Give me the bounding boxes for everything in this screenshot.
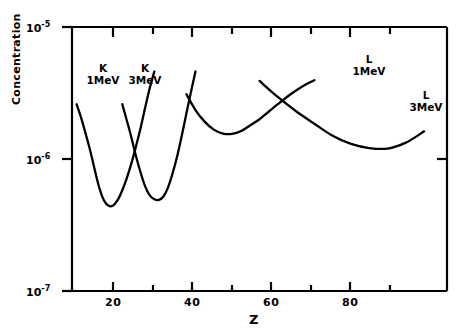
x-axis-title: Z [249,312,258,327]
curve-l-3mev [260,81,425,149]
y-tick-label-1e-6: 10-6 [26,152,50,167]
y-tick-label-1e-7: 10-7 [26,284,50,299]
curve-label-l-1mev: L 1MeV [348,53,390,77]
curve-label-k-3mev: K 3MeV [123,62,167,86]
curve-l-1mev [186,80,314,134]
y-tick-label-1e-5: 10-5 [26,20,50,35]
curve-label-l-1mev-line2: 1MeV [348,65,390,77]
x-tick-label-20: 20 [105,296,121,309]
plot-area-svg [0,0,468,332]
x-tick-label-60: 60 [263,296,279,309]
data-curves [77,72,425,207]
curve-k-3mev [122,72,195,201]
curve-label-l-1mev-line1: L [348,53,390,65]
curve-label-l-3mev: L 3MeV [404,89,448,113]
figure-canvas: 10-5 10-6 10-7 Concentration 20 40 60 80… [0,0,468,332]
y-axis-ticks [62,27,72,291]
x-tick-label-80: 80 [342,296,358,309]
curve-label-l-3mev-line2: 3MeV [404,101,448,113]
curve-label-k-3mev-line2: 3MeV [123,74,167,86]
curve-label-k-1mev: K 1MeV [82,62,124,86]
x-axis-ticks-top [113,27,390,37]
curve-k-1mev [77,72,155,207]
curve-label-k-1mev-line2: 1MeV [82,74,124,86]
x-tick-label-40: 40 [184,296,200,309]
curve-label-k-3mev-line1: K [123,62,167,74]
curve-label-l-3mev-line1: L [404,89,448,101]
y-axis-title: Concentration [10,0,23,105]
curve-label-k-1mev-line1: K [82,62,124,74]
